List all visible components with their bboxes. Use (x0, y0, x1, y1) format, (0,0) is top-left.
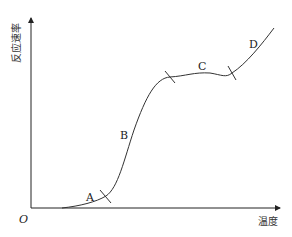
rate-curve (62, 28, 274, 208)
rate-temperature-diagram: A B C D O 温度 反应速率 (0, 0, 292, 237)
y-axis-label: 反应速率 (10, 23, 22, 63)
tick-a-b (100, 190, 111, 203)
segment-label-a: A (85, 191, 95, 204)
segment-label-c: C (198, 60, 206, 73)
x-axis-label: 温度 (258, 215, 278, 227)
segment-label-b: B (120, 129, 128, 142)
segment-label-d: D (249, 38, 258, 51)
tick-c-d (228, 66, 236, 80)
origin-label: O (19, 213, 28, 226)
